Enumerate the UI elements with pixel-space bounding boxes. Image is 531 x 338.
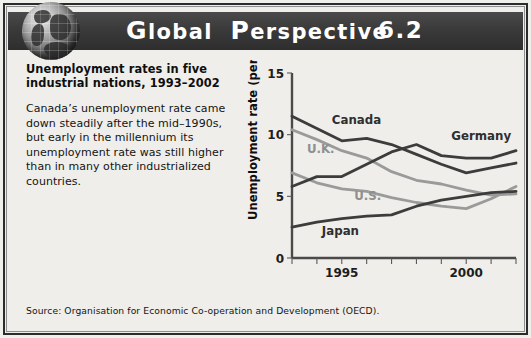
series-label-canada: Canada (332, 113, 381, 127)
series-line-japan (292, 191, 516, 227)
header-title-word2-initial: P (230, 16, 250, 45)
header-number: 6.2 (378, 17, 423, 43)
header-title: Global Perspective (126, 16, 388, 45)
series-label-uk: U.K. (307, 142, 335, 156)
x-tick-label: 2000 (450, 266, 483, 280)
blurb-block: Unemployment rates in five industrial na… (26, 62, 226, 190)
blurb-body: Canada’s unemployment rate came down ste… (26, 102, 226, 190)
series-line-us (292, 173, 516, 209)
header-band: Global Perspective 6.2 (8, 12, 523, 50)
y-axis-title: Unemployment rate (percent) (246, 60, 260, 220)
header-title-word2-rest: erspective (250, 20, 388, 44)
global-perspective-figure: Global Perspective 6.2 Unemployment rate… (0, 0, 531, 338)
blurb-heading: Unemployment rates in five industrial na… (26, 62, 226, 90)
y-tick-label: 15 (267, 67, 284, 81)
y-tick-label: 5 (276, 190, 284, 204)
chart-tick-labels: 05101519952000 (267, 67, 483, 281)
globe-graticule (22, 2, 80, 60)
x-tick-label: 1995 (325, 266, 358, 280)
source-note: Source: Organisation for Economic Co-ope… (26, 305, 379, 316)
series-label-germany: Germany (451, 129, 511, 143)
y-tick-label: 0 (276, 252, 284, 266)
header-title-word1-rest: lobal (148, 20, 213, 44)
series-label-us: U.S. (354, 189, 381, 203)
unemployment-line-chart: CanadaU.K.U.S.GermanyJapan 0510151995200… (244, 60, 522, 292)
header-title-word1-initial: G (126, 16, 148, 45)
y-tick-label: 10 (267, 128, 284, 142)
globe-icon (22, 2, 80, 60)
chart-svg: CanadaU.K.U.S.GermanyJapan 0510151995200… (244, 60, 522, 292)
series-label-japan: Japan (321, 224, 359, 238)
